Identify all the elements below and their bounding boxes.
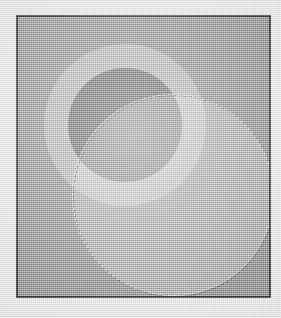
selection-circle-fill[interactable]	[72, 94, 269, 296]
document-title: Ellipse selection on gray canvas	[0, 0, 1, 1]
artwork-frame[interactable]	[16, 15, 271, 298]
canvas-surface[interactable]	[18, 17, 269, 296]
screenshot-root: Ellipse selection on gray canvas	[0, 0, 281, 318]
